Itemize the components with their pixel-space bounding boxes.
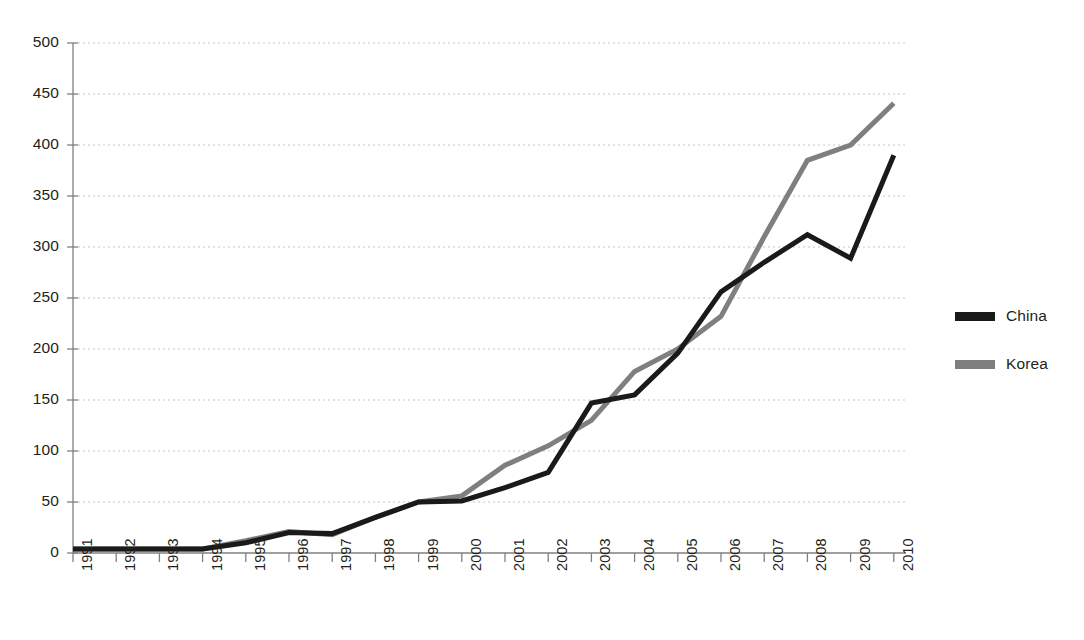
x-axis-tick-label: 1994	[209, 538, 225, 571]
legend-item-korea: Korea	[955, 340, 1075, 388]
data-series-group	[73, 103, 894, 549]
y-axis-tick-label: 50	[15, 492, 59, 510]
line-chart: 050100150200250300350400450500 199119921…	[0, 0, 1084, 640]
y-axis-tick-label: 100	[15, 441, 59, 459]
x-axis-tick-label: 2004	[641, 538, 657, 571]
x-axis-tick-label: 1997	[338, 538, 354, 571]
y-axis-tick-label: 150	[15, 390, 59, 408]
y-axis-tick-label: 450	[15, 84, 59, 102]
legend-swatch-china	[955, 312, 995, 321]
x-axis-tick-label: 2010	[900, 538, 916, 571]
x-axis-tick-label: 2005	[684, 538, 700, 571]
chart-plot-area	[0, 0, 1084, 640]
y-axis-tick-label: 250	[15, 288, 59, 306]
x-axis-tick-label: 2009	[857, 538, 873, 571]
x-axis-tick-label: 2002	[554, 538, 570, 571]
x-axis-tick-label: 1995	[252, 538, 268, 571]
y-axis-tick-label: 350	[15, 186, 59, 204]
y-axis-tick-label: 500	[15, 33, 59, 51]
x-axis-tick-label: 2007	[770, 538, 786, 571]
x-axis-tick-label: 2006	[727, 538, 743, 571]
x-axis-tick-label: 2001	[511, 538, 527, 571]
x-axis-tick-label: 1996	[295, 538, 311, 571]
x-axis-tick-label: 1998	[381, 538, 397, 571]
x-axis-tick-label: 2008	[813, 538, 829, 571]
legend-label-china: China	[1006, 307, 1047, 325]
x-axis-tick-label: 2000	[468, 538, 484, 571]
x-axis-tick-label: 2003	[597, 538, 613, 571]
legend-swatch-korea	[955, 360, 995, 369]
x-axis-tick-label: 1992	[122, 538, 138, 571]
gridlines-group	[73, 43, 906, 502]
series-line-korea	[73, 103, 894, 549]
chart-legend: China Korea	[955, 292, 1075, 388]
x-axis-tick-label: 1993	[165, 538, 181, 571]
y-axis-tick-label: 200	[15, 339, 59, 357]
x-axis-tick-label: 1999	[425, 538, 441, 571]
y-axis-tick-label: 0	[15, 543, 59, 561]
legend-item-china: China	[955, 292, 1075, 340]
y-axis-tick-label: 300	[15, 237, 59, 255]
series-line-china	[73, 155, 894, 549]
x-axis-tick-label: 1991	[79, 538, 95, 571]
y-axis-tick-label: 400	[15, 135, 59, 153]
legend-label-korea: Korea	[1006, 355, 1048, 373]
